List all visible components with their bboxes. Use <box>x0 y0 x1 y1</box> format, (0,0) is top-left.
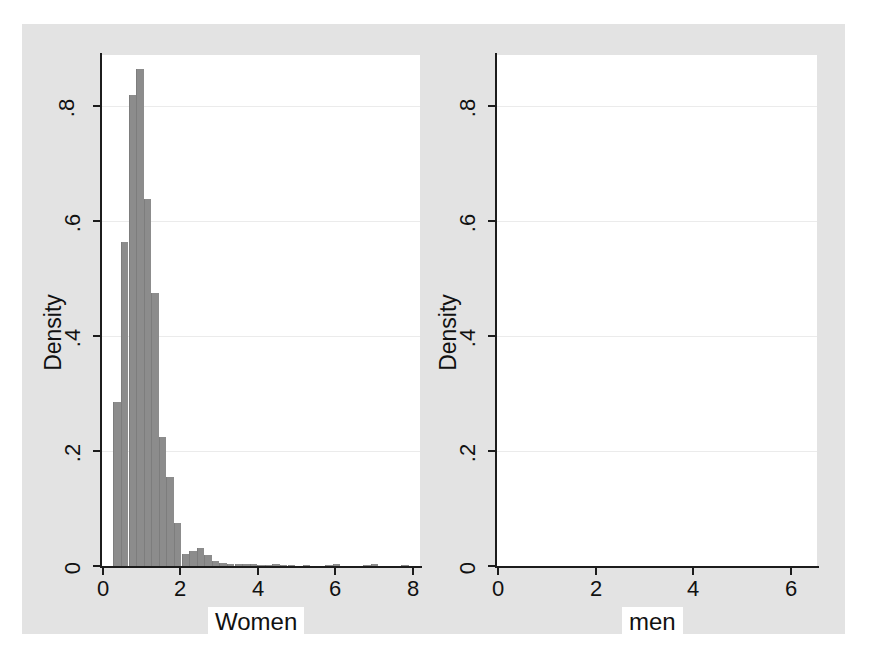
x-tick-label-women-0: 0 <box>83 576 123 602</box>
y-axis-title-men: Density <box>435 283 462 383</box>
histogram-bar <box>151 293 159 566</box>
histogram-bars-women <box>102 55 420 566</box>
x-tick-men-4 <box>692 568 694 575</box>
histogram-bar <box>129 95 137 566</box>
x-tick-label-women-4: 4 <box>238 576 278 602</box>
y-axis-line-women <box>100 53 102 568</box>
histogram-bar <box>182 554 190 566</box>
y-tick-women-0.6 <box>93 220 100 222</box>
y-tick-label-men-0.8: .8 <box>455 93 481 123</box>
gridline-men-0.4 <box>497 336 817 337</box>
x-tick-men-2 <box>595 568 597 575</box>
x-tick-label-men-0: 0 <box>478 576 518 602</box>
x-tick-label-men-6: 6 <box>771 576 811 602</box>
y-tick-men-0.4 <box>488 335 495 337</box>
panel-men: 0 .2 .4 .6 .8 Density 0 2 4 6 men <box>422 24 845 634</box>
x-tick-men-0 <box>497 568 499 575</box>
x-axis-line-women <box>100 566 422 568</box>
histogram-bar <box>144 199 152 566</box>
x-tick-women-2 <box>179 568 181 575</box>
y-tick-label-women-0.8: .8 <box>54 99 80 117</box>
gridline-men-0.2 <box>497 451 817 452</box>
x-tick-women-6 <box>334 568 336 575</box>
x-axis-title-men: men <box>622 607 683 637</box>
x-axis-line-men <box>495 566 819 568</box>
x-tick-label-women-6: 6 <box>315 576 355 602</box>
histogram-bar <box>113 402 121 566</box>
x-tick-label-men-2: 2 <box>576 576 616 602</box>
histogram-bar <box>189 551 197 566</box>
y-tick-women-0.4 <box>93 335 100 337</box>
y-tick-men-0.8 <box>488 105 495 107</box>
x-tick-label-women-2: 2 <box>160 576 200 602</box>
x-axis-title-women: Women <box>208 607 304 637</box>
x-tick-women-4 <box>257 568 259 575</box>
histogram-bar <box>159 437 167 566</box>
panel-women: 0 .2 .4 .6 .8 Density 0 2 4 6 8 Women <box>22 24 422 634</box>
y-tick-women-0.8 <box>93 105 100 107</box>
y-tick-label-women-0.2: .2 <box>60 438 86 468</box>
figure-canvas: 0 .2 .4 .6 .8 Density 0 2 4 6 8 Women 0 <box>22 24 845 634</box>
y-tick-men-0.6 <box>488 220 495 222</box>
y-axis-title-women: Density <box>40 283 67 383</box>
histogram-bar <box>204 555 212 566</box>
y-tick-label-men-0.2: .2 <box>455 438 481 468</box>
y-tick-label-men-0.6: .6 <box>455 208 481 238</box>
histogram-bar <box>174 523 182 566</box>
x-tick-women-8 <box>412 568 414 575</box>
histogram-bar <box>197 548 205 566</box>
x-tick-label-men-4: 4 <box>673 576 713 602</box>
x-tick-men-6 <box>790 568 792 575</box>
y-tick-women-0.2 <box>93 450 100 452</box>
y-tick-men-0 <box>488 565 495 567</box>
histogram-bar <box>136 69 144 566</box>
y-tick-women-0 <box>93 565 100 567</box>
y-axis-line-men <box>495 53 497 568</box>
y-tick-label-women-0.6: .6 <box>60 208 86 238</box>
gridline-men-0.6 <box>497 221 817 222</box>
histogram-bar <box>121 242 129 566</box>
y-tick-men-0.2 <box>488 450 495 452</box>
gridline-men-0.8 <box>497 106 817 107</box>
histogram-bar <box>166 477 174 566</box>
x-tick-women-0 <box>102 568 104 575</box>
plot-area-men <box>497 55 817 566</box>
